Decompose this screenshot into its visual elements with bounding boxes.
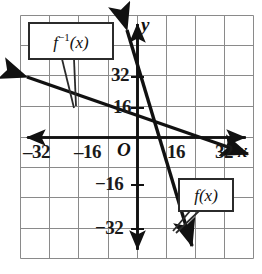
x-tick-label-neg32: ‒32	[23, 141, 50, 163]
f-inverse-argument: (x)	[70, 32, 89, 51]
x-tick-label-16: 16	[167, 141, 185, 163]
y-axis-label: y	[141, 14, 149, 36]
y-tick-label-neg32: −32	[95, 217, 123, 239]
y-tick-label-16: 16	[113, 96, 131, 118]
x-tick-label-neg16: ‒16	[74, 141, 101, 163]
callout-f: f(x)	[178, 178, 234, 212]
callout-pointer-inverse	[62, 59, 76, 108]
graph-figure: ‒32 ‒16 16 32 32 16 −16 −32 O y x f−1(x)…	[0, 0, 262, 274]
y-tick-label-neg16: −16	[95, 173, 123, 195]
origin-label: O	[117, 139, 131, 161]
callout-f-inverse-text: f−1(x)	[53, 32, 88, 51]
callout-f-inverse: f−1(x)	[28, 22, 114, 60]
x-axis-label: x	[238, 140, 248, 162]
y-tick-label-32: 32	[111, 64, 129, 86]
x-tick-label-32: 32	[215, 141, 233, 163]
callout-f-text: f(x)	[194, 187, 218, 204]
f-inverse-exponent: −1	[58, 31, 70, 43]
